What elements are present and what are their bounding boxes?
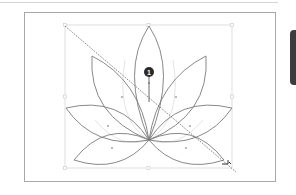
- petal-lower-left: [74, 133, 149, 164]
- scale-drag-guide: [65, 26, 236, 172]
- petal-lower-right: [149, 133, 224, 164]
- lotus-artwork[interactable]: 1: [0, 0, 296, 195]
- petal-upper-left: [92, 56, 149, 140]
- petal-upper-right: [149, 56, 206, 140]
- selection-bounding-box: [65, 25, 232, 168]
- callout-number: 1: [147, 69, 151, 76]
